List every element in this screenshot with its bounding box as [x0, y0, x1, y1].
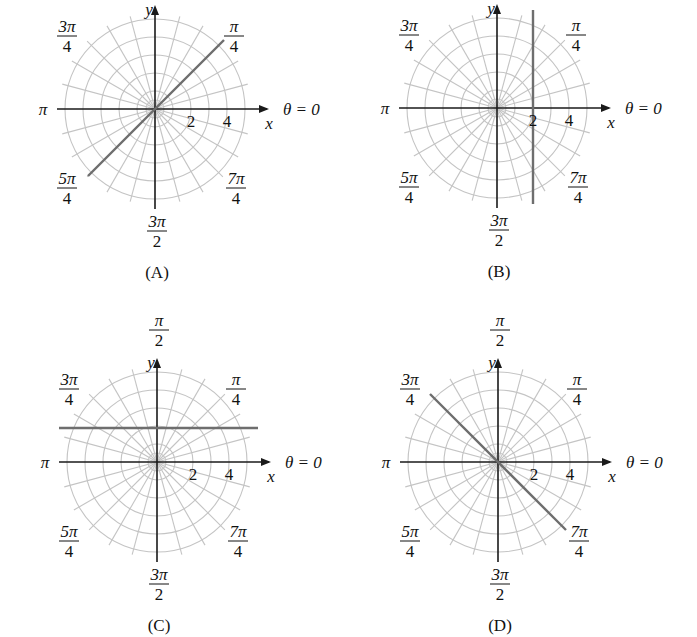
pi-over-2-label-num: π: [496, 311, 505, 330]
five-pi-over-4-label-num: 5π: [400, 168, 418, 187]
panel-caption: (C): [148, 616, 171, 635]
pi-over-4-label-num: π: [573, 370, 582, 389]
pi-over-4-label-num: π: [230, 17, 239, 36]
tick-2: 2: [530, 465, 539, 484]
three-pi-over-4-label-num: 3π: [59, 370, 78, 389]
theta-zero-label: θ = 0: [283, 100, 320, 119]
three-pi-over-2-label: 3π2: [147, 212, 167, 251]
three-pi-over-4-label-den: 4: [65, 390, 74, 409]
grid-spoke: [497, 83, 590, 108]
five-pi-over-4-label-den: 4: [63, 189, 72, 208]
grid-spoke: [497, 108, 590, 133]
grid-spoke: [404, 83, 497, 108]
three-pi-over-4-label: 3π4: [57, 17, 77, 56]
three-pi-over-2-label-num: 3π: [490, 565, 509, 584]
pi-over-4-label-den: 4: [572, 36, 581, 55]
polar-figure: yx24θ = 0ππ43π45π47π43π2(A)yx24θ = 0ππ43…: [0, 0, 697, 637]
y-axis-label: y: [145, 353, 155, 372]
seven-pi-over-4-label-den: 4: [232, 189, 241, 208]
panel-caption: (B): [488, 262, 511, 281]
three-pi-over-4-label: 3π4: [399, 16, 419, 55]
grid-spoke: [132, 462, 157, 555]
three-pi-over-2-label-den: 2: [155, 585, 164, 604]
three-pi-over-4-label: 3π4: [59, 370, 79, 409]
pi-label: π: [39, 100, 48, 119]
five-pi-over-4-label-num: 5π: [58, 169, 76, 188]
seven-pi-over-4-label-den: 4: [575, 542, 584, 561]
tick-4: 4: [566, 465, 575, 484]
curve-ray-line: [88, 40, 224, 176]
grid-spoke: [130, 16, 155, 109]
pi-over-4-label: π4: [567, 370, 587, 409]
y-axis-label: y: [143, 0, 153, 19]
three-pi-over-2-label-num: 3π: [489, 211, 508, 230]
three-pi-over-2-label: 3π2: [490, 565, 510, 604]
grid-spoke: [157, 462, 182, 555]
pi-over-2-label: π2: [149, 311, 169, 350]
panel-b: yx24θ = 0ππ43π45π47π43π2(B): [381, 0, 663, 281]
five-pi-over-4-label: 5π4: [59, 522, 79, 561]
pi-over-2-label-den: 2: [496, 331, 505, 350]
x-axis-arrow-icon: [259, 105, 269, 113]
grid-spoke: [497, 108, 522, 201]
grid-spoke: [64, 437, 157, 462]
pi-label: π: [381, 99, 390, 118]
seven-pi-over-4-label: 7π4: [569, 522, 589, 561]
five-pi-over-4-label-num: 5π: [60, 522, 78, 541]
seven-pi-over-4-label-den: 4: [234, 542, 243, 561]
five-pi-over-4-label: 5π4: [57, 169, 77, 208]
five-pi-over-4-label-num: 5π: [401, 522, 419, 541]
three-pi-over-2-label-den: 2: [495, 231, 504, 250]
three-pi-over-4-label: 3π4: [400, 370, 420, 409]
grid-spoke: [157, 369, 182, 462]
seven-pi-over-4-label: 7π4: [568, 168, 588, 207]
tick-4: 4: [223, 112, 232, 131]
three-pi-over-4-label-den: 4: [405, 36, 414, 55]
grid-spoke: [132, 369, 157, 462]
three-pi-over-4-label-num: 3π: [399, 16, 418, 35]
theta-zero-label: θ = 0: [285, 453, 322, 472]
seven-pi-over-4-label-num: 7π: [229, 522, 247, 541]
three-pi-over-2-label-den: 2: [496, 585, 505, 604]
grid-spoke: [497, 15, 522, 108]
pi-over-2-label: π2: [490, 311, 510, 350]
grid-spoke: [472, 15, 497, 108]
panel-c: yx24θ = 0ππ43π45π47π43π2π2(C): [41, 311, 323, 635]
grid-spoke: [498, 437, 591, 462]
pi-over-4-label-num: π: [572, 16, 581, 35]
tick-2: 2: [529, 111, 538, 130]
three-pi-over-4-label-num: 3π: [57, 17, 76, 36]
grid-spoke: [473, 462, 498, 555]
grid-spoke: [498, 369, 523, 462]
seven-pi-over-4-label: 7π4: [228, 522, 248, 561]
pi-over-4-label: π4: [566, 16, 586, 55]
grid-spoke: [405, 462, 498, 487]
grid-spoke: [64, 462, 157, 487]
pi-over-2-label-num: π: [155, 311, 164, 330]
pi-over-2-label-den: 2: [155, 331, 164, 350]
grid-spoke: [155, 109, 248, 134]
theta-zero-label: θ = 0: [626, 453, 663, 472]
x-axis-label: x: [266, 467, 275, 486]
pi-over-4-label-num: π: [232, 370, 241, 389]
x-axis-arrow-icon: [602, 458, 612, 466]
panel-caption: (D): [488, 616, 512, 635]
grid-spoke: [62, 84, 155, 109]
x-axis-label: x: [607, 467, 616, 486]
y-axis-label: y: [486, 353, 496, 372]
pi-over-4-label-den: 4: [573, 390, 582, 409]
tick-2: 2: [187, 112, 196, 131]
theta-zero-label: θ = 0: [625, 99, 662, 118]
grid-spoke: [157, 462, 250, 487]
pi-label: π: [382, 453, 391, 472]
three-pi-over-2-label-num: 3π: [149, 565, 168, 584]
grid-spoke: [472, 108, 497, 201]
three-pi-over-2-label-num: 3π: [147, 212, 166, 231]
pi-over-4-label: π4: [226, 370, 246, 409]
five-pi-over-4-label: 5π4: [399, 168, 419, 207]
three-pi-over-4-label-den: 4: [63, 37, 72, 56]
three-pi-over-2-label: 3π2: [149, 565, 169, 604]
pi-over-4-label-den: 4: [232, 390, 241, 409]
tick-4: 4: [565, 111, 574, 130]
seven-pi-over-4-label-num: 7π: [227, 169, 245, 188]
